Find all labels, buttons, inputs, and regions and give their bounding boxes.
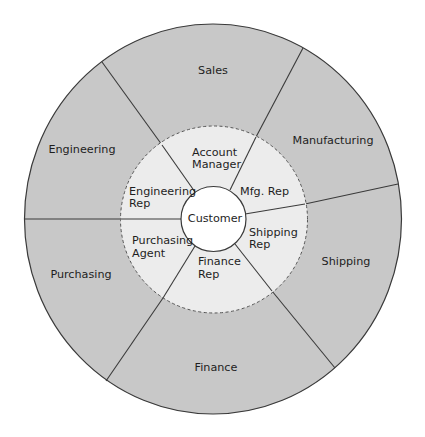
inner-label-line: Purchasing	[132, 234, 193, 247]
inner-label-line: Rep	[129, 197, 150, 210]
diagram-canvas: Customer Sales Manufacturing Shipping Fi…	[0, 0, 425, 437]
customer-label: Customer	[188, 212, 243, 225]
inner-label-line: Agent	[132, 247, 166, 260]
inner-label-line: Rep	[198, 268, 219, 281]
inner-label-account-manager: Account Manager	[192, 146, 241, 171]
inner-label-line: Mfg. Rep	[240, 185, 289, 198]
outer-label-shipping: Shipping	[322, 255, 371, 268]
customer-wheel-diagram: Customer Sales Manufacturing Shipping Fi…	[0, 0, 425, 437]
outer-label-engineering: Engineering	[48, 143, 115, 156]
inner-label-line: Finance	[198, 255, 241, 268]
inner-label-line: Manager	[192, 158, 241, 171]
outer-label-finance: Finance	[195, 361, 238, 374]
outer-label-sales: Sales	[198, 64, 228, 77]
outer-label-manufacturing: Manufacturing	[292, 134, 373, 147]
inner-label-line: Rep	[249, 238, 270, 251]
outer-label-purchasing: Purchasing	[50, 268, 111, 281]
inner-label-mfg-rep: Mfg. Rep	[240, 185, 289, 198]
